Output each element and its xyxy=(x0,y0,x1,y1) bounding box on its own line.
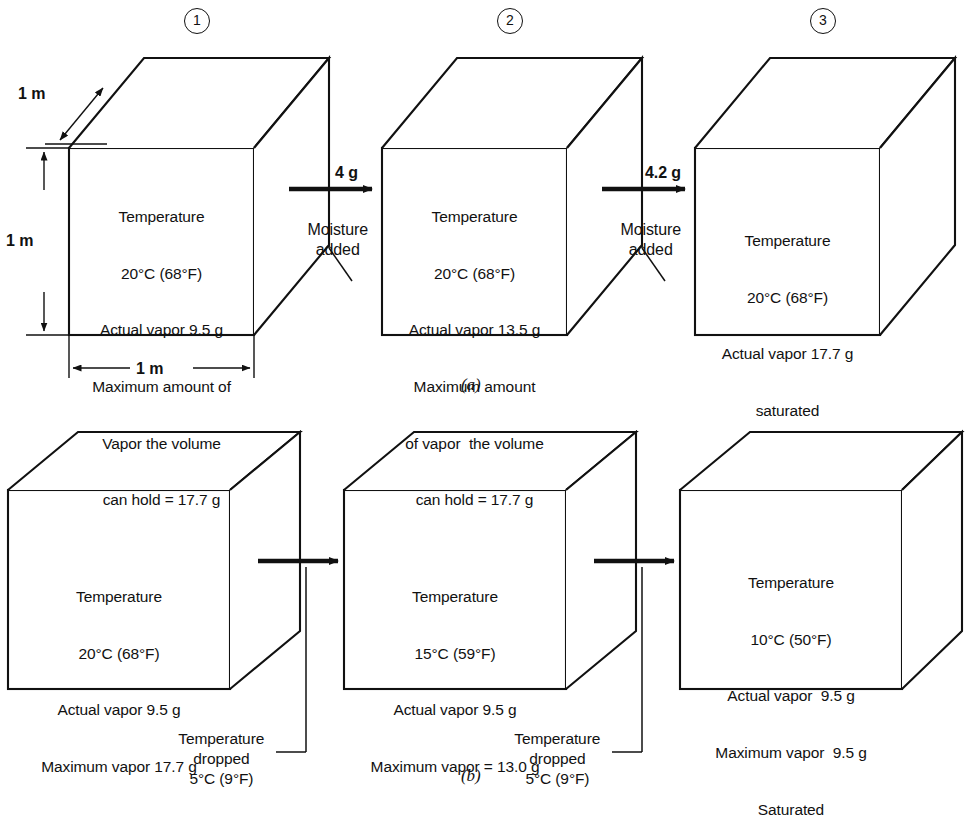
cube-a-3-line-4: saturated xyxy=(693,402,882,421)
cube-a-3-line-2: 20°C (68°F) xyxy=(693,289,882,308)
step-number-2: 2 xyxy=(497,8,523,34)
cube-b-3-line-5: Saturated xyxy=(678,801,904,819)
cube-a-2-line-6: can hold = 17.7 g xyxy=(378,491,571,510)
cube-a-3-line-1: Temperature xyxy=(693,232,882,251)
depth-dimension-label: 1 m xyxy=(18,84,45,104)
cube-a-1-line-4: Maximum amount of xyxy=(69,378,254,397)
cube-a-2-line-3: Actual vapor 13.5 g xyxy=(378,321,571,340)
transition-b-2-caption: Temperature dropped 5°C (9°F) xyxy=(486,709,612,810)
cube-b-1-line-1: Temperature xyxy=(6,588,232,607)
transition-a-1-caption-line-1: Moisture xyxy=(307,221,368,238)
cube-a-3-text: Temperature 20°C (68°F) Actual vapor 17.… xyxy=(693,194,882,459)
panel-b-caption: (b) xyxy=(461,766,481,787)
cube-a-2-line-1: Temperature xyxy=(378,208,571,227)
cube-a-1-line-5: Vapor the volume xyxy=(69,435,254,454)
transition-a-2-caption-line-1: Moisture xyxy=(620,221,681,238)
cube-b-3-line-4: Maximum vapor 9.5 g xyxy=(678,744,904,763)
cube-a-1-line-1: Temperature xyxy=(69,208,254,227)
transition-a-2-caption: Moisture added xyxy=(599,200,685,280)
transition-b-1-caption-line-3: 5°C (9°F) xyxy=(189,770,253,787)
cube-b-3-line-1: Temperature xyxy=(678,574,904,593)
cube-a-1-text: Temperature 20°C (68°F) Actual vapor 9.5… xyxy=(69,170,254,548)
panel-a-caption: (a) xyxy=(461,375,481,396)
transition-b-1-caption-line-1: Temperature xyxy=(178,730,264,747)
cube-a-1-line-2: 20°C (68°F) xyxy=(69,265,254,284)
height-dimension-label: 1 m xyxy=(6,231,33,251)
transition-b-1-caption: Temperature dropped 5°C (9°F) xyxy=(150,709,276,810)
cube-a-3-line-3: Actual vapor 17.7 g xyxy=(693,345,882,364)
cube-a-1-line-3: Actual vapor 9.5 g xyxy=(69,321,254,340)
step-number-3: 3 xyxy=(810,8,836,34)
cube-b-3-line-3: Actual vapor 9.5 g xyxy=(678,687,904,706)
transition-a-2-caption-line-2: added xyxy=(629,241,673,258)
transition-a-1-caption-line-2: added xyxy=(316,241,360,258)
cube-b-3-text: Temperature 10°C (50°F) Actual vapor 9.5… xyxy=(678,536,904,819)
transition-a-1-caption: Moisture added xyxy=(286,200,372,280)
transition-a-1-amount: 4 g xyxy=(335,163,358,183)
cube-a-2-line-2: 20°C (68°F) xyxy=(378,265,571,284)
transition-b-1-caption-line-2: dropped xyxy=(193,750,249,767)
step-number-1: 1 xyxy=(184,8,210,34)
cube-a-2-line-5: of vapor the volume xyxy=(378,435,571,454)
cube-b-2-line-1: Temperature xyxy=(338,588,572,607)
transition-b-2-caption-line-1: Temperature xyxy=(514,730,600,747)
cube-a-1-line-6: can hold = 17.7 g xyxy=(69,491,254,510)
cube-a-2-text: Temperature 20°C (68°F) Actual vapor 13.… xyxy=(378,170,571,548)
cube-b-3-line-2: 10°C (50°F) xyxy=(678,631,904,650)
transition-a-2-amount: 4.2 g xyxy=(645,163,681,183)
transition-b-2-caption-line-3: 5°C (9°F) xyxy=(525,770,589,787)
cube-b-2-line-2: 15°C (59°F) xyxy=(338,645,572,664)
cube-b-1-line-2: 20°C (68°F) xyxy=(6,645,232,664)
transition-b-2-caption-line-2: dropped xyxy=(529,750,585,767)
